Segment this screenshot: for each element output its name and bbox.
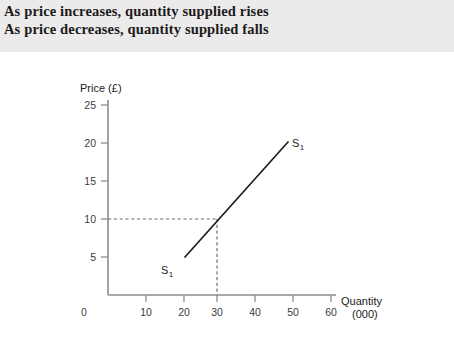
curve-label-lower: S1 [161,264,174,279]
x-tick-label-40: 40 [249,306,261,318]
y-tick-label-20: 20 [84,137,96,149]
header-banner: As price increases, quantity supplied ri… [0,0,454,52]
figure-page: As price increases, quantity supplied ri… [0,0,454,340]
curve-label-lower-text: S [161,264,168,276]
header-statement-line-1: As price increases, quantity supplied ri… [4,3,269,20]
x-tick-label-20: 20 [178,306,190,318]
x-tick-label-0: 0 [81,306,87,318]
x-axis-title-line2: (000) [352,308,378,320]
x-tick-label-30: 30 [211,306,223,318]
x-axis-title-line1: Quantity [341,295,382,307]
curve-label-upper-subscript: 1 [300,143,305,152]
supply-curve-s1 [185,142,288,257]
curve-label-upper: S1 [292,137,305,152]
supply-curve-chart: 25 20 15 10 5 0 10 20 30 40 50 60 Price … [0,52,454,340]
y-tick-label-15: 15 [84,175,96,187]
x-tick-label-50: 50 [287,306,299,318]
curve-label-upper-text: S [292,137,299,149]
curve-label-lower-subscript: 1 [169,270,174,279]
header-statement-line-2: As price decreases, quantity supplied fa… [4,21,269,38]
y-axis-title: Price (£) [80,82,122,94]
y-tick-label-10: 10 [84,213,96,225]
y-tick-label-25: 25 [84,99,96,111]
x-tick-label-10: 10 [140,306,152,318]
y-tick-label-5: 5 [90,251,96,263]
x-tick-label-60: 60 [325,306,337,318]
chart-svg: 25 20 15 10 5 0 10 20 30 40 50 60 Price … [0,52,454,340]
